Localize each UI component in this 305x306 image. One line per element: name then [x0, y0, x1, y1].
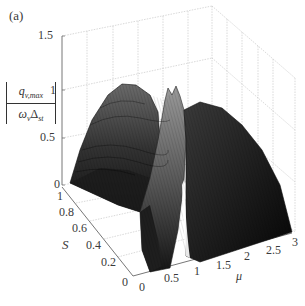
surface-plot-svg — [0, 0, 305, 306]
s-tick: 1 — [57, 190, 63, 202]
z-label-numerator: qv,max — [6, 82, 56, 104]
surface — [70, 84, 292, 272]
mu-tick: 1 — [194, 265, 200, 277]
z-tick: 1 — [50, 84, 56, 96]
mu-tick: 2.5 — [266, 244, 281, 256]
z-tick: 1.5 — [38, 29, 53, 41]
abs-bar-left — [6, 82, 7, 124]
mu-tick: 2 — [244, 250, 250, 262]
s-tick: 0.4 — [86, 239, 101, 251]
z-tick: 0.5 — [40, 131, 55, 143]
s-tick: 0.8 — [59, 206, 74, 218]
mu-axis-label: μ — [236, 270, 242, 282]
surface-plot-figure: (a) qv,max ωvΔst 1.5 1 0.5 0 1 0.8 0.6 0… — [0, 0, 305, 306]
s-tick: 0.6 — [72, 222, 87, 234]
mu-tick: 3 — [292, 236, 298, 248]
mu-tick: 0.5 — [164, 272, 179, 284]
panel-label: (a) — [9, 9, 23, 22]
mu-tick: 0 — [139, 281, 145, 293]
s-tick: 0.2 — [101, 256, 116, 268]
z-label-denominator: ωvΔst — [6, 104, 56, 123]
z-axis-label: qv,max ωvΔst — [6, 82, 56, 124]
s-axis-label: S — [62, 238, 69, 251]
mu-tick: 1.5 — [216, 259, 231, 271]
s-tick: 0 — [122, 276, 128, 288]
